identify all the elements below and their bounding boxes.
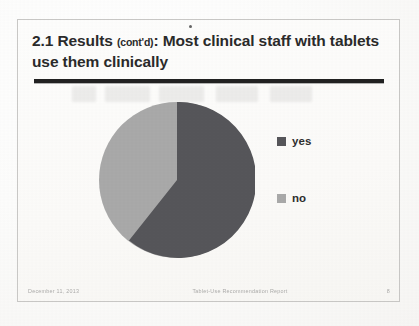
footer-date: December 11, 2013: [28, 288, 79, 294]
legend-item-no: no: [277, 192, 367, 204]
footer-document-title: Tablet-Use Recommendation Report: [192, 288, 287, 294]
title-block: 2.1 Results (cont'd): Most clinical staf…: [32, 31, 387, 72]
page-title: 2.1 Results (cont'd): Most clinical staf…: [32, 31, 387, 72]
footer-page-number: 8: [387, 288, 390, 294]
legend-swatch-no-icon: [277, 194, 286, 203]
scan-speck-artifact: [189, 25, 192, 28]
slide-footer: December 11, 2013 Tablet-Use Recommendat…: [28, 288, 390, 294]
scanned-page-background: 2.1 Results (cont'd): Most clinical staf…: [0, 0, 419, 326]
title-contd-note: (cont'd): [117, 36, 153, 48]
title-prefix: 2.1 Results: [32, 32, 117, 49]
chart-legend: yes no: [277, 135, 367, 249]
pie-chart: [99, 102, 255, 258]
title-divider-rule: [34, 79, 384, 83]
legend-label-yes: yes: [292, 135, 312, 147]
chart-area: yes no: [17, 95, 400, 270]
legend-item-yes: yes: [277, 135, 367, 147]
title-divider-shadow: [34, 83, 384, 84]
legend-label-no: no: [292, 192, 306, 204]
legend-swatch-yes-icon: [277, 137, 286, 146]
